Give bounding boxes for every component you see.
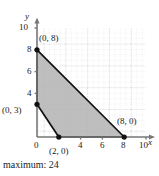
vertex-dot-0-8 <box>34 47 39 52</box>
y-tick-label-6: 6 <box>27 67 32 76</box>
vertex-label-2-0: (2, 0) <box>49 147 69 156</box>
x-tick-label-6: 6 <box>100 141 105 150</box>
y-tick-label-8: 8 <box>27 45 32 54</box>
x-tick-label-0: 0 <box>34 141 39 150</box>
vertex-label-0-3: (0, 3) <box>2 106 22 115</box>
vertex-dot-8-0 <box>122 134 127 139</box>
y-tick-label-4: 4 <box>27 89 32 98</box>
y-axis-label: y <box>25 12 29 21</box>
x-axis-label: x <box>148 138 152 147</box>
vertex-label-0-8: (0, 8) <box>39 34 59 43</box>
x-tick-label-4: 4 <box>78 141 83 150</box>
x-tick-label-10: 10 <box>139 141 148 150</box>
x-tick-label-8: 8 <box>121 141 126 150</box>
y-tick-label-10: 10 <box>19 23 28 32</box>
vertex-dot-0-3 <box>34 102 39 107</box>
vertex-dot-2-0 <box>56 134 61 139</box>
vertex-label-8-0: (8, 0) <box>117 117 137 126</box>
feasible-region-figure: y x 10 8 6 4 0 4 6 8 10 (0, 8) (0, 3) (2… <box>0 0 159 176</box>
maximum-caption: maximum: 24 <box>3 159 59 170</box>
